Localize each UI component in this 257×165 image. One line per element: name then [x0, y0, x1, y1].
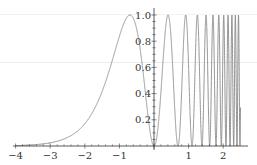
x-tick-label: −1 — [112, 150, 127, 161]
y-tick-label: 0.8 — [135, 36, 151, 47]
y-tick-label: 0.2 — [135, 114, 151, 125]
series-line — [16, 15, 241, 146]
x-tick-label: 2 — [220, 150, 226, 161]
x-tick-label: −3 — [43, 150, 58, 161]
plot-area: −4−3−2−1120.20.40.60.81.0 — [0, 0, 257, 165]
y-tick-label: 1.0 — [135, 10, 151, 21]
y-tick-label: 0.6 — [135, 62, 151, 73]
x-tick-label: −4 — [8, 150, 23, 161]
x-tick-label: −2 — [77, 150, 92, 161]
x-tick-label: 1 — [185, 150, 191, 161]
chart: −4−3−2−1120.20.40.60.81.0 — [0, 0, 257, 165]
y-tick-label: 0.4 — [135, 88, 151, 99]
